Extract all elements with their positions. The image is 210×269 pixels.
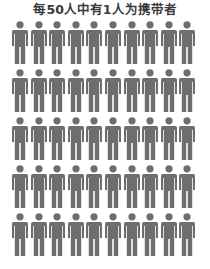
person-icon — [67, 117, 86, 161]
person-icon — [178, 21, 197, 65]
person-icon — [160, 117, 179, 161]
person-icon — [67, 165, 86, 209]
person-icon — [178, 165, 197, 209]
person-icon — [123, 117, 142, 161]
person-icon — [11, 69, 30, 113]
person-icon — [160, 21, 179, 65]
person-icon — [104, 165, 123, 209]
person-icon — [178, 117, 197, 161]
person-icon — [48, 21, 67, 65]
person-icon — [104, 69, 123, 113]
person-icon — [85, 213, 104, 257]
person-icon — [67, 213, 86, 257]
infographic-title: 每50人中有1人为携带者 — [0, 2, 210, 17]
person-row — [11, 213, 201, 261]
person-icon — [141, 165, 160, 209]
person-row — [11, 165, 201, 213]
person-icon — [30, 165, 49, 209]
person-icon — [11, 213, 30, 257]
person-icon — [123, 69, 142, 113]
person-icon — [30, 69, 49, 113]
person-icon — [85, 117, 104, 161]
person-icon — [48, 69, 67, 113]
person-icon — [123, 21, 142, 65]
person-icon — [48, 117, 67, 161]
person-icon — [104, 213, 123, 257]
person-icon — [123, 165, 142, 209]
person-icon — [85, 69, 104, 113]
person-icon — [160, 165, 179, 209]
person-icon — [141, 69, 160, 113]
person-row — [11, 117, 201, 165]
person-row — [11, 21, 201, 69]
person-icon — [123, 213, 142, 257]
person-icon — [141, 21, 160, 65]
person-icon — [48, 165, 67, 209]
person-icon — [178, 213, 197, 257]
person-icon — [104, 117, 123, 161]
person-icon — [141, 213, 160, 257]
person-icon — [30, 213, 49, 257]
person-icon — [67, 21, 86, 65]
person-icon — [104, 21, 123, 65]
person-icon — [11, 117, 30, 161]
person-icon — [67, 69, 86, 113]
person-icon — [178, 69, 197, 113]
person-grid — [11, 21, 201, 261]
person-icon — [30, 117, 49, 161]
person-icon — [141, 117, 160, 161]
person-icon — [11, 21, 30, 65]
person-icon — [85, 165, 104, 209]
person-icon — [85, 21, 104, 65]
person-icon — [160, 213, 179, 257]
person-icon — [160, 69, 179, 113]
person-icon — [30, 21, 49, 65]
person-row — [11, 69, 201, 117]
person-icon — [48, 213, 67, 257]
person-icon — [11, 165, 30, 209]
